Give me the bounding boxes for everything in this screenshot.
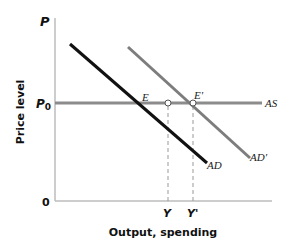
- point-E: [165, 100, 171, 106]
- chart-canvas: P P0 0 Price level Y Y' Output, spending…: [0, 0, 291, 247]
- p0-label: P0: [36, 97, 51, 112]
- label-AS: AS: [264, 97, 278, 109]
- chart: P P0 0 Price level Y Y' Output, spending…: [0, 0, 291, 247]
- x-axis-title: Output, spending: [109, 226, 217, 239]
- label-AD: AD: [206, 159, 222, 171]
- label-E: E: [141, 91, 149, 103]
- y-axis-letter: P: [40, 14, 50, 29]
- label-E-prime: E': [193, 89, 204, 101]
- y-axis-title: Price level: [14, 80, 27, 145]
- origin-label: 0: [42, 196, 50, 209]
- x-tick-Yprime: Y': [187, 207, 198, 220]
- x-tick-Y: Y: [163, 207, 172, 220]
- label-AD-prime: AD': [249, 151, 268, 163]
